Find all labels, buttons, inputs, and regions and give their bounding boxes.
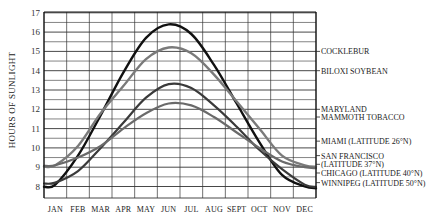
daylight-hours-chart: 891011121314151617 JANFEBMARAPRMAYJUNJUL… bbox=[0, 0, 442, 222]
y-tick-label: 11 bbox=[31, 124, 40, 134]
grid bbox=[44, 12, 316, 198]
x-tick-label: DEC bbox=[296, 205, 313, 214]
curve-label: (LATITUDE 37°N) bbox=[321, 160, 384, 169]
x-tick-label: FEB bbox=[70, 205, 85, 214]
y-tick-label: 14 bbox=[31, 66, 41, 76]
y-tick-label: 16 bbox=[31, 27, 41, 37]
right-labels: COCKLEBURBILOXI SOYBEANMARYLANDMAMMOTH T… bbox=[316, 47, 426, 187]
curve-label: BILOXI SOYBEAN bbox=[321, 67, 388, 76]
x-tick-labels: JANFEBMARAPRMAYJUNJULAUGSEPTOCTNOVDEC bbox=[48, 205, 313, 214]
x-tick-label: MAY bbox=[137, 205, 156, 214]
x-tick-label: JUN bbox=[161, 205, 176, 214]
y-tick-labels: 891011121314151617 bbox=[31, 8, 41, 192]
x-tick-label: OCT bbox=[251, 205, 268, 214]
x-tick-label: APR bbox=[115, 205, 132, 214]
y-tick-label: 9 bbox=[36, 162, 41, 172]
y-axis-label: HOURS OF SUNLIGHT bbox=[7, 51, 17, 148]
y-tick-label: 13 bbox=[31, 85, 41, 95]
curve-label: COCKLEBUR bbox=[321, 47, 370, 56]
curve-label: MAMMOTH TOBACCO bbox=[321, 113, 405, 122]
x-tick-label: MAR bbox=[91, 205, 110, 214]
x-tick-label: NOV bbox=[273, 205, 291, 214]
y-tick-label: 15 bbox=[31, 46, 41, 56]
curve-label: SAN FRANCISCO bbox=[321, 152, 384, 161]
curve-label: WINNIPEG (LATITUDE 50°N) bbox=[321, 179, 426, 188]
x-tick-label: AUG bbox=[205, 205, 223, 214]
x-tick-label: JUL bbox=[184, 205, 198, 214]
x-tick-label: SEPT bbox=[227, 205, 246, 214]
y-tick-label: 8 bbox=[36, 182, 41, 192]
x-tick-label: JAN bbox=[48, 205, 63, 214]
curve-label: CHICAGO (LATITUDE 40°N) bbox=[321, 169, 423, 178]
y-tick-label: 17 bbox=[31, 8, 41, 18]
y-tick-label: 12 bbox=[31, 104, 40, 114]
curve-label: MIAMI (LATITUDE 26°N) bbox=[321, 137, 412, 146]
y-tick-label: 10 bbox=[31, 143, 41, 153]
